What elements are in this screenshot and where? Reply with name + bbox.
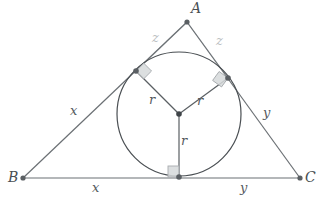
point-dots [20, 19, 302, 180]
side-ac [187, 22, 300, 178]
diagram-canvas: A B C z z x y x y r r r [0, 0, 321, 198]
length-label-z-left: z [151, 30, 159, 45]
right-angle-markers [136, 63, 228, 177]
vertex-label-b: B [7, 169, 18, 185]
vertex-dot-c [297, 175, 302, 180]
tangent-dot-ac [225, 75, 231, 81]
vertex-label-a: A [189, 0, 201, 16]
vertex-dot-b [20, 175, 25, 180]
vertex-label-c: C [305, 169, 316, 185]
tangent-dot-bc [176, 174, 182, 180]
length-label-y-side: y [262, 105, 271, 120]
triangle-outline [23, 22, 300, 178]
radius-segments [136, 71, 228, 177]
side-ab [23, 22, 187, 178]
length-label-x-side: x [70, 103, 78, 118]
length-label-y-base: y [239, 180, 248, 195]
tangent-dot-ab [133, 68, 139, 74]
incenter-dot [176, 111, 182, 117]
length-label-z-right: z [215, 33, 223, 48]
radius-label-bottom: r [181, 133, 188, 148]
radius-label-right: r [197, 93, 204, 108]
radius-label-left: r [149, 92, 156, 107]
geometry-figure: A B C z z x y x y r r r [0, 0, 321, 198]
vertex-dot-a [184, 19, 189, 24]
length-label-x-base: x [92, 180, 100, 195]
